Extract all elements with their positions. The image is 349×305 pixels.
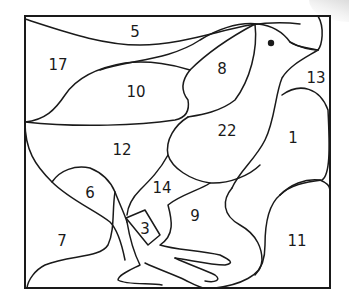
outline-11-top	[280, 180, 330, 195]
outline-7	[27, 192, 115, 288]
outline-5-17	[25, 19, 300, 45]
outline-11-left	[255, 195, 280, 275]
outline-neck	[232, 42, 318, 188]
region-label-12: 12	[112, 141, 131, 159]
region-label-9: 9	[190, 207, 200, 225]
region-label-17: 17	[48, 56, 67, 74]
region-label-7: 7	[57, 232, 67, 250]
region-label-8: 8	[217, 60, 227, 78]
region-label-3: 3	[140, 220, 150, 238]
outline-22	[167, 117, 260, 183]
region-label-1: 1	[288, 129, 298, 147]
region-label-22: 22	[217, 122, 236, 140]
region-label-14: 14	[152, 179, 171, 197]
region-label-13: 13	[306, 69, 325, 87]
region-label-5: 5	[130, 23, 140, 41]
region-label-11: 11	[287, 232, 306, 250]
outline-13	[318, 16, 322, 50]
puzzle-diagram: 5 17 10 8 13 22 1 12 6 14 9 3 7 11	[0, 0, 349, 305]
outline-11	[215, 188, 262, 288]
frame-border	[25, 16, 330, 288]
eye-icon	[268, 40, 274, 46]
region-label-6: 6	[85, 184, 95, 202]
region-label-10: 10	[126, 83, 145, 101]
